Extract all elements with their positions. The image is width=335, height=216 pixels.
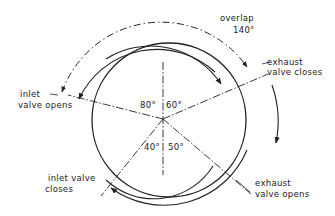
- rotation-arrow: [272, 85, 278, 143]
- leader-inlet-opens: [50, 94, 58, 95]
- inner-arc-top: [79, 49, 215, 99]
- exhaust-closes-label-2: valve closes: [267, 67, 322, 77]
- inner-exhaust-arc: [106, 166, 213, 199]
- inlet-closes-line: [101, 119, 163, 196]
- exhaust-closes-line: [163, 74, 268, 119]
- angle-50: 50°: [168, 142, 184, 152]
- exhaust-opens-label-1: exhaust: [255, 178, 291, 188]
- valve-timing-diagram: overlap 140° exhaust valve closes inlet …: [0, 0, 335, 216]
- crank-circle: [92, 43, 246, 197]
- angle-60: 60°: [166, 100, 182, 110]
- inlet-closes-label-2: closes: [45, 184, 73, 194]
- exhaust-closes-label-1: exhaust: [267, 57, 303, 67]
- inlet-opens-label-2: valve opens: [18, 100, 73, 110]
- inlet-opens-label-1: inlet: [20, 89, 40, 99]
- inlet-closes-label-1: inlet valve: [48, 173, 96, 183]
- exhaust-opens-line: [163, 119, 251, 194]
- leader-exhaust-opens: [236, 180, 250, 192]
- overlap-label: overlap: [220, 13, 254, 23]
- overlap-angle: 140°: [233, 25, 255, 35]
- angle-80: 80°: [140, 100, 156, 110]
- angle-40: 40°: [144, 142, 160, 152]
- exhaust-opens-label-2: valve opens: [255, 189, 310, 199]
